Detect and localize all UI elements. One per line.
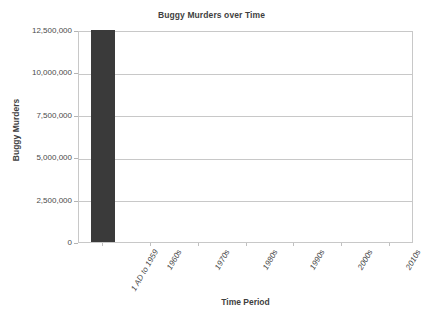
bar-slot [270,32,318,242]
y-tick-mark [74,31,78,32]
bar-slot [223,32,271,242]
y-tick-label: 0 [2,238,72,247]
bar[interactable] [91,30,115,242]
y-tick-mark [74,116,78,117]
bar-slot [318,32,366,242]
y-tick-mark [74,201,78,202]
y-tick-label: 12,500,000 [2,26,72,35]
x-tick-label: 2000s [356,248,375,271]
y-tick-label: 10,000,000 [2,68,72,77]
bar-chart: Buggy Murders over Time Buggy Murders 02… [0,0,423,320]
y-tick-label: 7,500,000 [2,111,72,120]
bar-slot [366,32,414,242]
x-axis-title: Time Period [78,297,413,307]
bar-slot [127,32,175,242]
x-tick-label: 1960s [165,248,184,271]
x-tick-mark [246,243,247,246]
y-axis-title: Buggy Murders [11,80,21,180]
x-tick-mark [198,243,199,246]
x-tick-label: 1970s [213,248,232,271]
y-tick-mark [74,243,78,244]
bar-slot [175,32,223,242]
y-tick-mark [74,158,78,159]
bar-slot [79,32,127,242]
y-tick-label: 2,500,000 [2,196,72,205]
bar-series [79,32,412,242]
x-tick-label: 1 AD to 1959 [129,248,160,293]
x-tick-mark [389,243,390,246]
x-tick-mark [293,243,294,246]
plot-area [78,31,413,243]
x-tick-label: 2010s [404,248,423,271]
x-tick-mark [341,243,342,246]
x-tick-label: 1980s [260,248,279,271]
y-tick-label: 5,000,000 [2,153,72,162]
chart-title: Buggy Murders over Time [0,10,423,20]
x-tick-label: 1990s [308,248,327,271]
x-tick-mark [102,243,103,246]
x-tick-mark [150,243,151,246]
y-tick-mark [74,73,78,74]
